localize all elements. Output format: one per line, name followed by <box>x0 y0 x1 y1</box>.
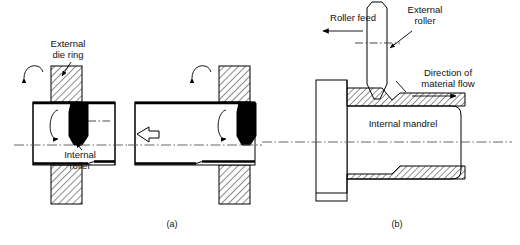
material-flow-label-line2: material flow <box>421 78 474 89</box>
external-die-ring-upper-left <box>51 66 82 102</box>
internal-roller-label-line1: Internal <box>64 149 96 160</box>
die-ring-rotation-arrow-left <box>24 66 43 78</box>
internal-roller-left <box>69 103 88 145</box>
external-die-ring-label-line2: die ring <box>52 49 83 60</box>
workpiece-wall-upper <box>347 88 465 106</box>
die-ring-rotation-arrow-right <box>192 66 211 78</box>
roller-feed-annotation: Roller feed <box>323 12 376 31</box>
internal-roller-right <box>237 103 256 145</box>
technical-diagram-svg: External die ring Internal roller (a) <box>0 0 520 245</box>
external-die-ring-lower-right <box>219 165 250 204</box>
figure-root: External die ring Internal roller (a) <box>0 0 520 245</box>
external-roller-label-line2: roller <box>414 15 435 26</box>
external-roller-annotation: External roller <box>390 4 442 48</box>
panel-b-caption: (b) <box>392 219 403 229</box>
internal-roller-label-line2: roller <box>69 160 90 171</box>
internal-mandrel-label: Internal mandrel <box>369 118 438 129</box>
workpiece-wall-lower <box>347 166 465 179</box>
material-flow-label-line1: Direction of <box>424 67 472 78</box>
external-die-ring-label-line1: External <box>51 38 86 49</box>
material-flow-annotation: Direction of material flow <box>396 67 475 96</box>
external-die-ring-upper-right <box>219 66 250 102</box>
external-roller-label-line1: External <box>408 4 443 15</box>
panel-b: Roller feed External roller Direction of… <box>262 2 512 229</box>
panel-a-left-station <box>14 66 128 204</box>
external-roller-leader-line <box>390 31 412 48</box>
panel-a-right-station <box>128 66 262 204</box>
mandrel-drive-flange <box>316 80 347 201</box>
material-flow-leader-line <box>396 81 406 92</box>
roller-feed-label: Roller feed <box>330 12 376 23</box>
panel-a: External die ring Internal roller (a) <box>14 38 262 229</box>
panel-a-caption: (a) <box>167 219 178 229</box>
